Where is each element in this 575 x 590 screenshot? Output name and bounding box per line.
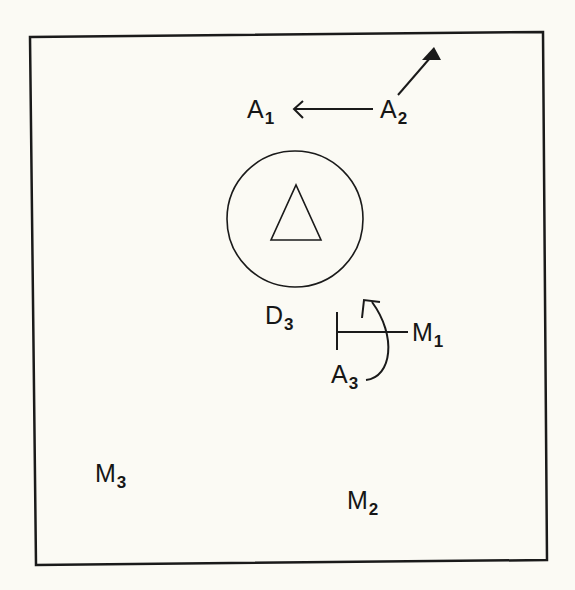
label-m2: M2 [347,488,378,518]
label-a1-main: A [247,95,264,123]
label-a2-sub: 2 [398,109,407,128]
label-a3-sub: 3 [349,374,358,393]
rotation-arrow-arc [366,302,388,380]
label-a2: A2 [380,97,407,127]
triangle-shape [271,185,321,240]
a2-pointer-tip-icon [422,47,441,60]
label-a2-main: A [380,95,397,123]
label-m1-sub: 1 [434,332,443,351]
label-m2-main: M [347,486,368,514]
label-m3: M3 [95,461,126,491]
label-a1-sub: 1 [265,109,274,128]
label-d3: D3 [265,303,294,333]
label-m1: M1 [412,320,443,350]
label-a1: A1 [247,97,274,127]
diagram-canvas [0,0,575,590]
label-m3-sub: 3 [117,473,126,492]
label-a3-main: A [331,360,348,388]
label-a3: A3 [331,362,358,392]
label-d3-sub: 3 [284,315,293,334]
circle-shape [227,151,363,287]
label-d3-main: D [265,301,283,329]
label-m2-sub: 2 [369,500,378,519]
label-m1-main: M [412,318,433,346]
label-m3-main: M [95,459,116,487]
a2-pointer-line [398,58,430,95]
